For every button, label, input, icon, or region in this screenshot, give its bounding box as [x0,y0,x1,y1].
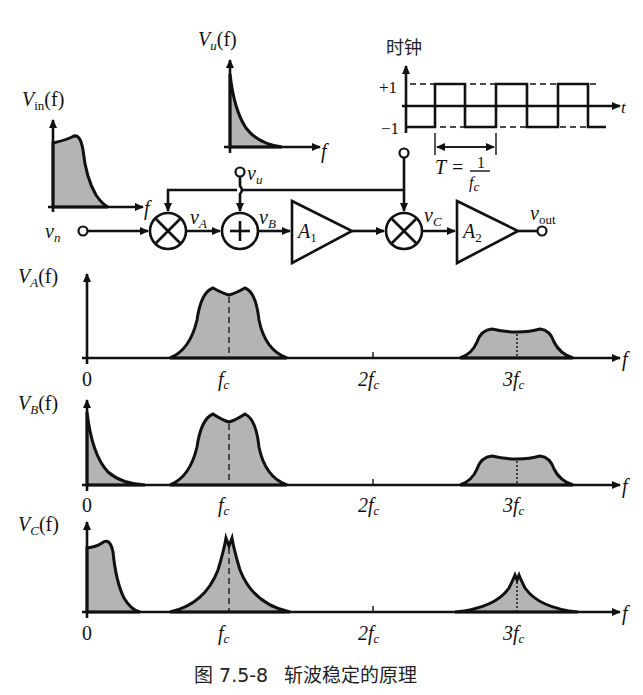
mixer-1 [150,213,186,249]
va-tick-0: 0 [82,368,92,390]
spectrum-vc: VC(f) 0 fc 2fc 3fc f [18,513,630,646]
chopper-stabilization-diagram: Vin(f) f Vu(f) f 时钟 +1 −1 t T = 1 fc vn [0,0,643,695]
amp2-label: A2 [461,220,482,245]
vin-x-label: f [144,197,152,220]
vu-x-label: f [321,140,329,163]
offset-label: vu [247,162,263,187]
vb-label: VB(f) [18,392,58,417]
va-tick-2fc: 2fc [358,368,380,392]
vb-tick-0: 0 [82,494,92,516]
vc-label: VC(f) [18,513,59,538]
period-numerator: 1 [477,154,485,171]
va-tick-3fc: 3fc [502,368,525,392]
clock-low-label: −1 [381,119,399,138]
clock-high-label: +1 [379,78,397,97]
vb-tick-3fc: 3fc [502,494,525,518]
vb-tick-fc: fc [218,494,230,518]
vb-x-label: f [622,475,630,498]
figure-caption: 图 7.5-8斩波稳定的原理 [194,664,417,686]
node-a-label: vA [190,206,207,231]
clock-terminal [400,149,409,158]
vc-tick-3fc: 3fc [502,622,525,646]
va-label: VA(f) [18,265,58,290]
spectrum-va: VA(f) 0 fc 2fc 3fc f [18,265,630,392]
va-tick-fc: fc [218,368,230,392]
clock-t-label: t [621,98,627,117]
period-denominator: fc [469,174,479,194]
output-label: vout [530,202,556,227]
clock-inset: 时钟 +1 −1 t T = 1 fc [379,37,627,194]
offset-terminal [236,168,245,177]
input-label: vn [45,220,60,245]
mixer-2 [386,213,422,249]
vc-tick-fc: fc [218,622,230,646]
summer [222,213,258,249]
output-terminal [538,227,547,236]
va-x-label: f [622,348,630,371]
node-b-label: vB [259,206,276,231]
node-c-label: vC [424,204,442,229]
vc-x-label: f [622,602,630,625]
vu-spectrum-inset: Vu(f) f [198,28,329,163]
amp1-label: A1 [296,220,317,245]
input-terminal [79,227,88,236]
vin-spectrum-inset: Vin(f) f [22,88,152,220]
vin-label: Vin(f) [22,88,64,113]
vc-tick-0: 0 [82,622,92,644]
period-label: T = [435,156,464,178]
vc-tick-2fc: 2fc [358,622,380,646]
vu-label: Vu(f) [198,28,237,53]
clock-title: 时钟 [386,37,422,58]
spectrum-vb: VB(f) 0 fc 2fc 3fc f [18,392,630,518]
vb-tick-2fc: 2fc [358,494,380,518]
